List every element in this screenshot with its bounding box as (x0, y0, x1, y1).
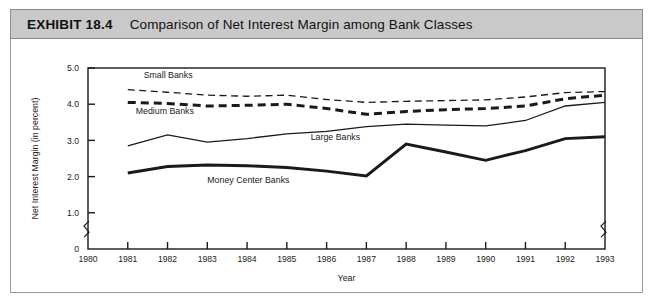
series-label-large-banks: Large Banks (311, 132, 361, 142)
x-tick-label: 1985 (277, 254, 296, 264)
x-tick-label: 1988 (397, 254, 416, 264)
x-tick-label: 1984 (238, 254, 257, 264)
series-line-medium-banks (128, 95, 605, 114)
x-tick-label: 1990 (476, 254, 495, 264)
x-tick-label: 1993 (595, 254, 614, 264)
x-tick-label: 1991 (516, 254, 535, 264)
plot-frame (88, 68, 605, 249)
y-tick-label: 1.0 (67, 208, 79, 218)
x-tick-label: 1992 (556, 254, 575, 264)
y-tick-label: 4.0 (67, 99, 79, 109)
y-tick-label: 3.0 (67, 136, 79, 146)
x-tick-label: 1980 (78, 254, 97, 264)
chart-svg: 01.02.03.04.05.0198019811982198319841985… (0, 0, 655, 304)
series-label-small-banks: Small Banks (144, 70, 193, 80)
y-tick-label: 2.0 (67, 172, 79, 182)
y-axis-title: Net Interest Margin (in percent) (30, 98, 40, 220)
series-line-money-center-banks (128, 137, 605, 176)
x-tick-label: 1982 (158, 254, 177, 264)
x-tick-label: 1983 (198, 254, 217, 264)
series-label-medium-banks: Medium Banks (136, 106, 195, 116)
x-tick-label: 1987 (357, 254, 376, 264)
line-chart: 01.02.03.04.05.0198019811982198319841985… (0, 0, 655, 304)
series-line-small-banks (128, 90, 605, 103)
x-axis-title: Year (338, 273, 356, 283)
series-line-large-banks (128, 102, 605, 145)
y-tick-label: 5.0 (67, 63, 79, 73)
exhibit-page: EXHIBIT 18.4 Comparison of Net Interest … (0, 0, 655, 304)
x-tick-label: 1981 (118, 254, 137, 264)
x-tick-label: 1989 (436, 254, 455, 264)
series-label-money-center-banks: Money Center Banks (207, 175, 290, 185)
y-tick-label: 0 (74, 244, 79, 254)
x-tick-label: 1986 (317, 254, 336, 264)
